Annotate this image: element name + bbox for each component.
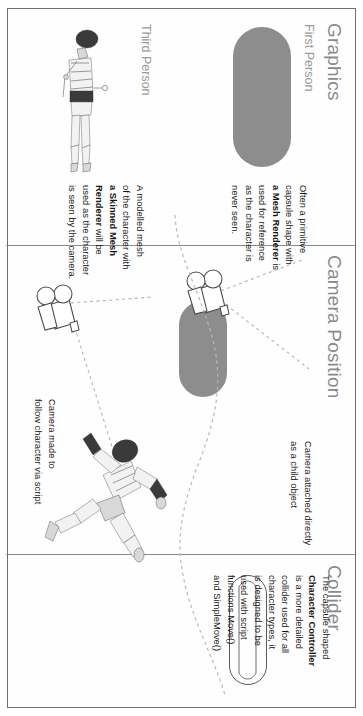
column-heading-camera-position: Camera Position xyxy=(323,255,345,398)
running-character-mesh xyxy=(41,409,177,559)
diagram-screenshot: Graphics Camera Position Collider First … xyxy=(0,0,363,716)
note-line-bold: a Skinned Mesh xyxy=(108,185,119,256)
camera-icon-third-person xyxy=(21,281,79,339)
note-line-bold: Renderer xyxy=(94,185,105,226)
note-line: collider used for all xyxy=(280,575,291,653)
note-line: character types, it xyxy=(267,575,278,649)
note-line: Often a primitive xyxy=(298,185,309,253)
row-label-first-person: First Person xyxy=(302,24,316,91)
note-first-person-camera: Camera attached directly as a child obje… xyxy=(288,441,315,571)
note-line: is designed to be xyxy=(253,575,264,646)
note-line-bold: Character Controller xyxy=(307,575,318,666)
diagram-page: Graphics Camera Position Collider First … xyxy=(7,8,356,708)
note-line-bold: a Mesh Renderer xyxy=(271,185,282,261)
note-line: Camera attached directly xyxy=(303,441,314,545)
third-person-mesh-figure xyxy=(17,17,127,177)
note-line: used for reference xyxy=(257,185,268,261)
column-heading-graphics: Graphics xyxy=(323,23,345,101)
note-line: as a child object xyxy=(289,441,300,508)
note-line: as the character is xyxy=(244,185,255,262)
note-line: functions Move() xyxy=(226,575,237,644)
rotated-page-canvas: Graphics Camera Position Collider First … xyxy=(0,0,363,716)
first-person-capsule-shape xyxy=(233,27,291,167)
note-line: A modelled mesh xyxy=(135,185,146,257)
row-label-third-person: Third Person xyxy=(139,24,153,96)
note-collider: The capsule shaped Character Controller … xyxy=(211,575,333,701)
note-line: used with script xyxy=(239,575,250,640)
note-line: is a more detailed xyxy=(294,575,305,649)
note-line: The capsule shaped xyxy=(321,575,332,659)
note-line: and SimpleMove() xyxy=(212,575,223,651)
